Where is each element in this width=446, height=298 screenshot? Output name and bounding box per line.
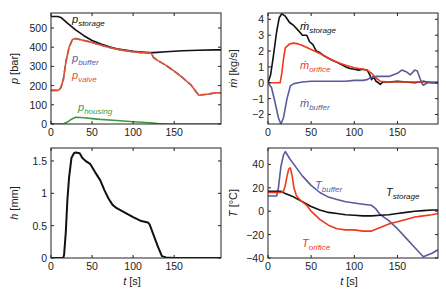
x-tick-label: 0: [265, 260, 271, 272]
x-tick-label: 100: [124, 126, 142, 138]
y-tick-label: 300: [29, 60, 47, 72]
T-orifice-label: Torifice: [302, 237, 331, 252]
x-tick-label: 50: [305, 126, 317, 138]
temperature-chart: 050100150−40−2002040T [°C]t [s]TbufferTs…: [227, 148, 438, 287]
y-tick-label: 0: [258, 205, 264, 217]
y-tick-label: 1: [41, 187, 47, 199]
y-tick-label: 400: [29, 41, 47, 53]
x-tick-label: 150: [389, 126, 407, 138]
x-tick-label: 150: [389, 260, 407, 272]
m-buffer-line: [268, 70, 438, 124]
x-tick-label: 150: [165, 126, 183, 138]
x-tick-label: 150: [165, 260, 183, 272]
m-storage-label: ṁstorage: [300, 20, 336, 35]
y-axis-label: h [mm]: [8, 186, 20, 220]
x-tick-label: 0: [48, 126, 54, 138]
valve-lift-chart: 05010015000.511.5h [mm]t [s]: [8, 148, 221, 287]
x-axis-label: t [s]: [340, 275, 358, 287]
y-tick-label: 0: [41, 252, 47, 264]
x-tick-label: 50: [86, 126, 98, 138]
T-buffer-line: [268, 152, 438, 257]
series-group: [268, 14, 438, 124]
y-tick-label: 100: [29, 99, 47, 111]
y-tick-label: 0: [41, 118, 47, 130]
series-group: [51, 153, 221, 259]
y-tick-label: 3: [258, 29, 264, 41]
y-axis-label: T [°C]: [227, 189, 239, 217]
y-tick-label: −2: [252, 108, 264, 120]
y-tick-label: 2: [258, 45, 264, 57]
p-housing-label: phousing: [77, 101, 113, 116]
x-tick-label: 0: [48, 260, 54, 272]
m-orifice-label: ṁorifice: [300, 59, 331, 74]
m-buffer-label: ṁbuffer: [300, 97, 330, 112]
plot-frame: [51, 148, 221, 258]
y-tick-label: 500: [29, 22, 47, 34]
x-tick-label: 100: [346, 126, 364, 138]
x-tick-label: 0: [265, 126, 271, 138]
y-tick-label: −20: [246, 229, 264, 241]
p-storage-label: pstorage: [71, 13, 105, 28]
p-valve-line: [51, 39, 221, 96]
p-buffer-line: [51, 39, 221, 96]
y-tick-label: 40: [252, 158, 264, 170]
pressure-chart: 0501001500100200300400500p [bar]pstorage…: [8, 13, 221, 138]
y-tick-label: 0.5: [32, 220, 47, 232]
m-orifice-line: [268, 43, 438, 83]
y-tick-label: 1.5: [32, 155, 47, 167]
m-storage-line: [268, 14, 438, 85]
x-tick-label: 50: [86, 260, 98, 272]
y-axis-label: ṁ [kg/s]: [227, 49, 239, 88]
x-axis-label: t [s]: [123, 275, 141, 287]
mass-flow-chart: 050100150−2−101234ṁ [kg/s]ṁstorageṁorifi…: [227, 13, 438, 138]
p-valve-label: pvalve: [71, 69, 97, 84]
x-tick-label: 50: [305, 260, 317, 272]
p-housing-line: [51, 117, 221, 124]
x-tick-label: 100: [124, 260, 142, 272]
y-tick-label: 4: [258, 13, 264, 25]
y-tick-label: −40: [246, 252, 264, 264]
figure-grid: 0501001500100200300400500p [bar]pstorage…: [0, 0, 446, 298]
y-axis-label: p [bar]: [8, 53, 20, 85]
y-tick-label: 200: [29, 80, 47, 92]
series-group: [268, 152, 438, 257]
x-tick-label: 100: [346, 260, 364, 272]
y-tick-label: 1: [258, 61, 264, 73]
y-tick-label: 20: [252, 182, 264, 194]
y-tick-label: −1: [252, 93, 264, 105]
T-storage-label: Tstorage: [386, 186, 420, 201]
p-buffer-label: pbuffer: [71, 52, 99, 67]
y-tick-label: 0: [258, 77, 264, 89]
h-line: [51, 153, 221, 259]
